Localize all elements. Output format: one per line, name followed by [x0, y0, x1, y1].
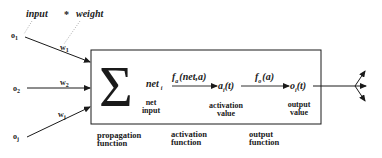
activation-function-label-2: function: [171, 137, 202, 147]
svg-text:neti: neti: [146, 78, 163, 91]
dotted-pointer-weight: [64, 21, 80, 44]
propagation-function-label-2: function: [97, 138, 128, 148]
annotation-operator: *: [64, 9, 69, 20]
svg-text:w2: w2: [60, 78, 69, 88]
fanout-arrow-up: [355, 71, 365, 86]
svg-text:oj: oj: [13, 132, 19, 142]
svg-text:wj: wj: [58, 110, 66, 120]
svg-text:o2: o2: [13, 84, 20, 94]
output-value-label-2: value: [290, 108, 309, 117]
annotation-input: input: [26, 8, 49, 19]
dotted-pointer-input: [24, 21, 32, 34]
svg-text:oi(t): oi(t): [290, 80, 306, 93]
input-j: oj wj: [13, 107, 90, 142]
output-function-label-2: function: [249, 137, 280, 147]
svg-text:o1: o1: [11, 31, 18, 41]
input-weight-annotation: input * weight: [24, 8, 104, 44]
summation-icon: Σ: [99, 54, 133, 119]
input-1-arrow: [25, 37, 90, 62]
annotation-weight: weight: [76, 8, 104, 19]
input-1: o1 w1: [11, 31, 90, 62]
artificial-neuron-diagram: input * weight o1 w1 o2 w2 oj wj Σ neti …: [0, 0, 382, 158]
fanout-arrow-down: [355, 86, 365, 101]
input-2: o2 w2: [13, 78, 90, 94]
activation-value-label-2: value: [217, 109, 236, 118]
svg-text:fo(a): fo(a): [255, 71, 274, 84]
net-input-label-2: input: [142, 106, 161, 115]
net-symbol: net: [146, 78, 160, 89]
svg-text:fa(net,a): fa(net,a): [172, 71, 206, 84]
svg-text:ai(t): ai(t): [218, 80, 234, 93]
svg-text:w1: w1: [60, 43, 69, 53]
